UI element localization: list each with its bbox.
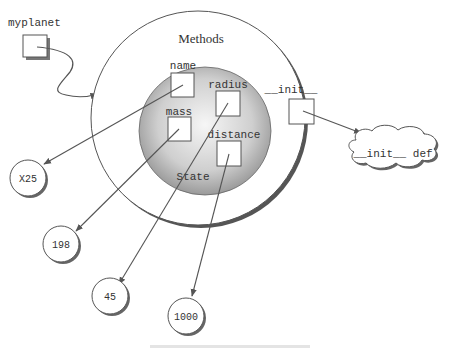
caption-fragment [150, 345, 310, 348]
value-label: 1000 [174, 312, 198, 323]
value-label: 45 [104, 292, 116, 303]
value-node-1000: 1000 [168, 298, 206, 336]
value-node-x25: X25 [10, 160, 48, 198]
value-label: 198 [52, 240, 70, 251]
value-node-45: 45 [92, 278, 130, 316]
attribute-mass: mass [166, 106, 192, 141]
object-diagram: myplanet Methods State name mass radius … [0, 0, 450, 352]
attribute-slot [168, 117, 191, 141]
value-node-198: 198 [43, 226, 81, 264]
variable-label: myplanet [8, 17, 61, 29]
attribute-label: radius [208, 79, 248, 91]
attribute-label: distance [208, 129, 261, 141]
method-definition-cloud: __init__ def [349, 125, 438, 170]
method-definition-label: __init__ def [352, 148, 432, 160]
attribute-label: mass [166, 106, 192, 118]
attribute-slot [217, 141, 241, 166]
variable-myplanet: myplanet [8, 17, 61, 60]
attribute-label: name [170, 60, 196, 72]
variable-box [23, 35, 47, 57]
attribute-name: name [170, 60, 196, 97]
method-label: __init__ [264, 84, 318, 96]
value-label: X25 [19, 174, 37, 185]
method-slot [289, 99, 314, 124]
methods-label: Methods [178, 31, 224, 46]
